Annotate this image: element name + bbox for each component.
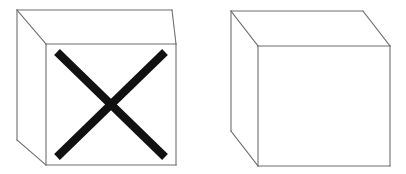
right-cube-top-face <box>231 11 390 46</box>
figure-canvas <box>0 0 406 174</box>
left-cube[interactable] <box>17 10 176 165</box>
cubes-diagram <box>0 0 406 174</box>
right-cube-front-face <box>258 46 390 166</box>
right-cube[interactable] <box>231 11 390 166</box>
